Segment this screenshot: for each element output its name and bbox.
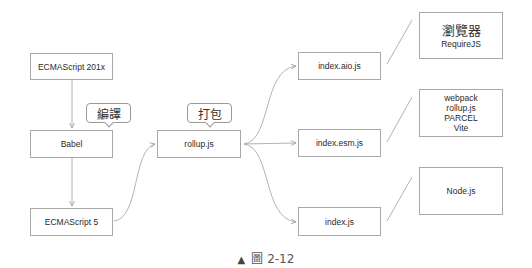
target-label: Node.js <box>447 186 476 196</box>
node-index-esm: index.esm.js <box>298 129 381 157</box>
arrow-rollup-aio <box>244 66 296 144</box>
node-label: ECMAScript 201x <box>38 62 105 72</box>
node-label: rollup.js <box>184 139 213 149</box>
node-rollup: rollup.js <box>157 130 241 158</box>
arrow-es5-rollup <box>114 144 155 221</box>
target-node: Node.js <box>419 167 503 215</box>
node-index-js: index.js <box>298 207 381 236</box>
target-bundlers: webpack rollup.js PARCEL Vite <box>419 89 503 137</box>
target-subtitle: RequireJS <box>441 39 481 49</box>
node-ecmascript-5: ECMAScript 5 <box>30 208 113 236</box>
node-label: index.js <box>325 217 354 227</box>
bundler-vite: Vite <box>454 123 469 133</box>
callout-compile: 編譯 <box>86 103 131 123</box>
arrow-rollup-index <box>244 144 296 222</box>
node-ecmascript-201x: ECMAScript 201x <box>30 53 113 80</box>
target-title: 瀏覽器 <box>442 23 481 39</box>
caption-text: 圖 2-12 <box>251 252 294 266</box>
callout-bundle: 打包 <box>187 103 232 123</box>
node-label: ECMAScript 5 <box>45 217 98 227</box>
bundler-webpack: webpack <box>444 93 478 103</box>
link-aio-browser <box>387 20 412 64</box>
node-babel: Babel <box>30 130 113 158</box>
target-browser: 瀏覽器 RequireJS <box>419 12 503 59</box>
triangle-marker-icon: ▲ <box>238 254 246 265</box>
callout-label: 打包 <box>198 105 222 122</box>
bundler-rollup: rollup.js <box>446 103 475 113</box>
arrow-rollup-esm <box>244 143 296 144</box>
node-label: index.aio.js <box>318 61 361 71</box>
node-label: Babel <box>61 139 83 149</box>
node-label: index.esm.js <box>316 138 363 148</box>
bundler-parcel: PARCEL <box>444 113 477 123</box>
figure-caption: ▲圖 2-12 <box>0 249 532 266</box>
link-esm-bundlers <box>387 97 412 142</box>
callout-label: 編譯 <box>97 105 121 122</box>
link-index-node <box>387 177 412 221</box>
node-index-aio: index.aio.js <box>298 52 381 80</box>
